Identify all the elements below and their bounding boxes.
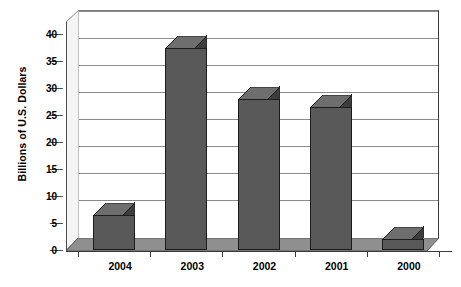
bar-front-face [93, 215, 135, 250]
y-tick-label: 30 [32, 83, 66, 94]
y-tick-label: 15 [32, 164, 66, 175]
x-tick-mark [222, 251, 223, 257]
x-axis-label-2003: 2003 [157, 260, 227, 272]
gridline [79, 38, 438, 39]
bar-top-face [93, 202, 135, 215]
x-axis-label-2004: 2004 [85, 260, 155, 272]
x-tick-mark [295, 251, 296, 257]
bar-2000 [382, 239, 424, 250]
x-axis-label-2000: 2000 [374, 260, 444, 272]
bar-2001 [310, 107, 352, 250]
x-axis-line [66, 251, 452, 252]
x-tick-mark [367, 251, 368, 257]
x-tick-mark [150, 251, 151, 257]
y-tick-label: 10 [32, 191, 66, 202]
x-axis-label-2002: 2002 [230, 260, 300, 272]
y-axis-title: Billions of U.S. Dollars [16, 44, 28, 204]
bar-2002 [238, 99, 280, 250]
y-tick-label: 40 [32, 29, 66, 40]
bar-front-face [382, 239, 424, 250]
y-tick-label: 20 [32, 137, 66, 148]
bar-chart: Billions of U.S. Dollars 051015202530354… [0, 0, 461, 287]
y-tick-label: 0 [32, 245, 66, 256]
x-tick-mark [78, 251, 79, 257]
bar-2003 [165, 48, 207, 251]
gridline [79, 65, 438, 66]
bar-front-face [310, 107, 352, 250]
gridline [79, 11, 438, 12]
y-tick-label: 5 [32, 218, 66, 229]
x-tick-mark [439, 251, 440, 257]
bar-top-face [382, 226, 424, 239]
bar-2004 [93, 215, 135, 250]
bar-top-face [238, 86, 280, 99]
x-axis-label-2001: 2001 [302, 260, 372, 272]
bar-front-face [165, 48, 207, 251]
plot-area: 0510152025303540 20042003200220012000 [66, 22, 439, 250]
bar-top-face [310, 94, 352, 107]
bar-top-face [165, 35, 207, 48]
bar-front-face [238, 99, 280, 250]
y-tick-label: 25 [32, 110, 66, 121]
y-tick-label: 35 [32, 56, 66, 67]
